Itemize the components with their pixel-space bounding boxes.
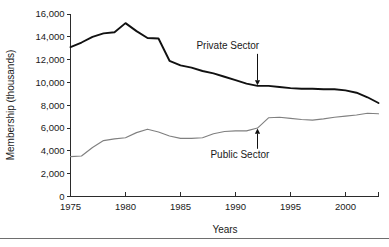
y-tick-label: 16,000 (35, 8, 64, 19)
y-tick-label: 6,000 (41, 122, 65, 133)
annotation-label-private-sector: Private Sector (196, 40, 259, 51)
x-tick-label: 2000 (335, 201, 356, 212)
y-axis-title: Membership (thousands) (5, 50, 16, 161)
line-chart-figure: 02,0004,0006,0008,00010,00012,00014,0001… (0, 0, 389, 247)
y-axis: 02,0004,0006,0008,00010,00012,00014,0001… (35, 8, 70, 202)
x-tick-label: 1995 (280, 201, 301, 212)
x-tick-label: 1990 (225, 201, 246, 212)
x-tick-label: 1980 (115, 201, 136, 212)
annotation-arrowhead-public-sector (255, 129, 260, 134)
x-axis: 197519801985199019952000 (60, 192, 379, 212)
x-tick-label: 1975 (60, 201, 81, 212)
y-tick-label: 4,000 (41, 145, 65, 156)
x-tick-label: 1985 (170, 201, 191, 212)
annotation-label-public-sector: Public Sector (210, 149, 270, 160)
y-tick-label: 12,000 (35, 54, 64, 65)
x-axis-title: Years (212, 224, 237, 235)
chart-plot-area: 02,0004,0006,0008,00010,00012,00014,0001… (0, 0, 389, 247)
y-tick-label: 2,000 (41, 168, 65, 179)
y-tick-label: 10,000 (35, 77, 64, 88)
series-line-private-sector (71, 23, 379, 103)
y-tick-label: 8,000 (41, 100, 65, 111)
annotation-layer: Private SectorPublic Sector (196, 40, 270, 160)
y-tick-label: 14,000 (35, 31, 64, 42)
